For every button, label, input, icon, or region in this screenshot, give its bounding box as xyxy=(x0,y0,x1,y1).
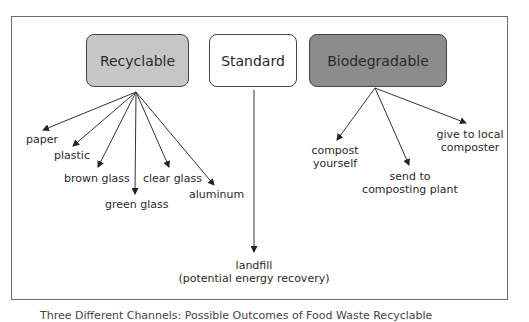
outcome-green-glass: green glass xyxy=(105,198,169,211)
plant-line1: send to xyxy=(360,170,460,183)
landfill-line1: landfill xyxy=(169,259,339,272)
outcome-clear-glass: clear glass xyxy=(143,172,202,185)
outcome-composting-plant: send to composting plant xyxy=(360,170,460,196)
outcome-compost-yourself: compost yourself xyxy=(300,144,370,170)
outcome-local-composter: give to local composter xyxy=(430,128,510,154)
outcome-landfill: landfill (potential energy recovery) xyxy=(169,259,339,285)
outcome-paper: paper xyxy=(26,133,58,146)
outcome-plastic: plastic xyxy=(54,149,90,162)
compost-line2: yourself xyxy=(300,157,370,170)
local-line1: give to local xyxy=(430,128,510,141)
local-line2: composter xyxy=(430,141,510,154)
outcome-aluminum: aluminum xyxy=(189,188,244,201)
outcome-brown-glass: brown glass xyxy=(64,172,130,185)
plant-line2: composting plant xyxy=(360,183,460,196)
compost-line1: compost xyxy=(300,144,370,157)
figure-caption: Three Different Channels: Possible Outco… xyxy=(40,309,432,322)
landfill-line2: (potential energy recovery) xyxy=(169,272,339,285)
